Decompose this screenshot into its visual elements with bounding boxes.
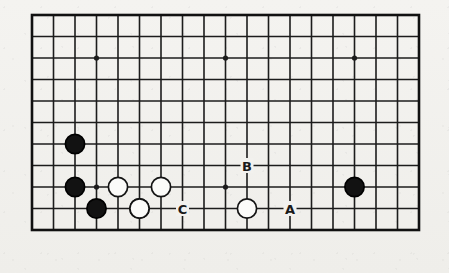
star-point-hoshi [223, 184, 228, 189]
white-stone [130, 199, 149, 218]
black-stone [87, 199, 106, 218]
white-stone [108, 177, 127, 196]
go-board-canvas: ABC [0, 0, 449, 273]
star-point-hoshi [223, 55, 228, 60]
grid-lines [32, 15, 419, 230]
black-stone [345, 177, 364, 196]
white-stone [237, 199, 256, 218]
go-board-diagram: ABC [0, 0, 449, 273]
star-point-hoshi [94, 184, 99, 189]
board-point-label: B [242, 159, 252, 174]
stones-group [65, 134, 364, 218]
star-point-hoshi [94, 55, 99, 60]
board-point-label: C [178, 202, 188, 217]
board-point-label: A [285, 202, 295, 217]
white-stone [151, 177, 170, 196]
black-stone [65, 177, 84, 196]
star-point-hoshi [352, 55, 357, 60]
black-stone [65, 134, 84, 153]
